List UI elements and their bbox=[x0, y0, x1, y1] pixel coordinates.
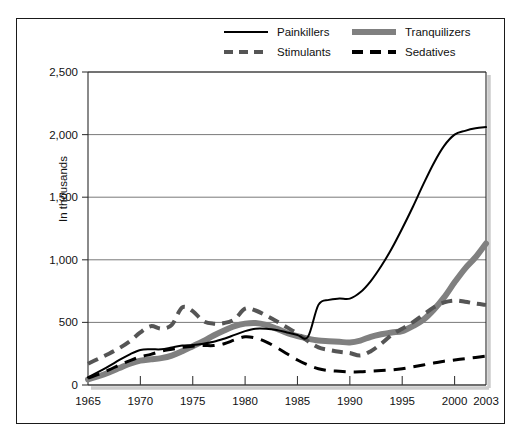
x-axis-tick-label: 2000 bbox=[442, 395, 468, 407]
y-axis-tick-label: 1,500 bbox=[49, 191, 78, 203]
y-axis-tick-label: 1,000 bbox=[49, 254, 78, 266]
x-axis-tick-label: 1995 bbox=[389, 395, 415, 407]
chart-figure: Painkillers Tranquilizers Stimulants Sed… bbox=[0, 0, 528, 444]
y-axis-tick-label: 0 bbox=[72, 379, 78, 391]
x-axis-tick-label: 2003 bbox=[473, 395, 499, 407]
x-axis-tick-label: 1990 bbox=[337, 395, 363, 407]
x-axis-tick-label: 1985 bbox=[285, 395, 311, 407]
x-axis-tick-label: 1980 bbox=[232, 395, 258, 407]
series-line-painkillers bbox=[88, 127, 486, 377]
y-axis-tick-label: 2,500 bbox=[49, 66, 78, 78]
x-axis-tick-label: 1965 bbox=[75, 395, 101, 407]
y-axis-tick-label: 2,000 bbox=[49, 129, 78, 141]
line-chart-svg: 05001,0001,5002,0002,5001965197019751980… bbox=[16, 18, 505, 424]
plot-area: In thousands 05001,0001,5002,0002,500196… bbox=[16, 18, 505, 424]
x-axis-tick-label: 1970 bbox=[128, 395, 154, 407]
x-axis-tick-label: 1975 bbox=[180, 395, 206, 407]
y-axis-tick-label: 500 bbox=[59, 316, 78, 328]
